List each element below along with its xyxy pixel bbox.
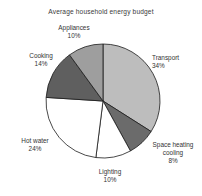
- slice-label-space-heating-cooling: Space heating cooling 8%: [144, 141, 202, 166]
- slice-label-hot-water-value: 24%: [6, 145, 64, 153]
- pie-chart-figure: Average household energy budget Applianc…: [0, 0, 202, 196]
- slice-label-appliances: Appliances 10%: [43, 24, 105, 40]
- slice-label-hot-water: Hot water 24%: [6, 137, 64, 153]
- slice-label-space-heating-line1: Space heating: [153, 141, 194, 148]
- slice-label-transport: Transport 34%: [152, 54, 202, 70]
- slice-label-appliances-name: Appliances: [58, 24, 89, 31]
- slice-label-lighting-value: 10%: [86, 176, 134, 184]
- slice-label-cooking: Cooking 14%: [12, 52, 70, 68]
- slice-label-cooking-value: 14%: [12, 60, 70, 68]
- slice-label-transport-value: 34%: [152, 62, 202, 70]
- slice-label-space-heating-value: 8%: [144, 157, 202, 165]
- slice-label-cooking-name: Cooking: [29, 52, 52, 59]
- slice-label-hot-water-name: Hot water: [21, 137, 48, 144]
- slice-label-lighting: Lighting 10%: [86, 168, 134, 184]
- slice-label-lighting-name: Lighting: [99, 168, 121, 175]
- slice-label-transport-name: Transport: [152, 54, 179, 61]
- slice-label-appliances-value: 10%: [43, 32, 105, 40]
- slice-label-space-heating-line2: cooling: [144, 149, 202, 157]
